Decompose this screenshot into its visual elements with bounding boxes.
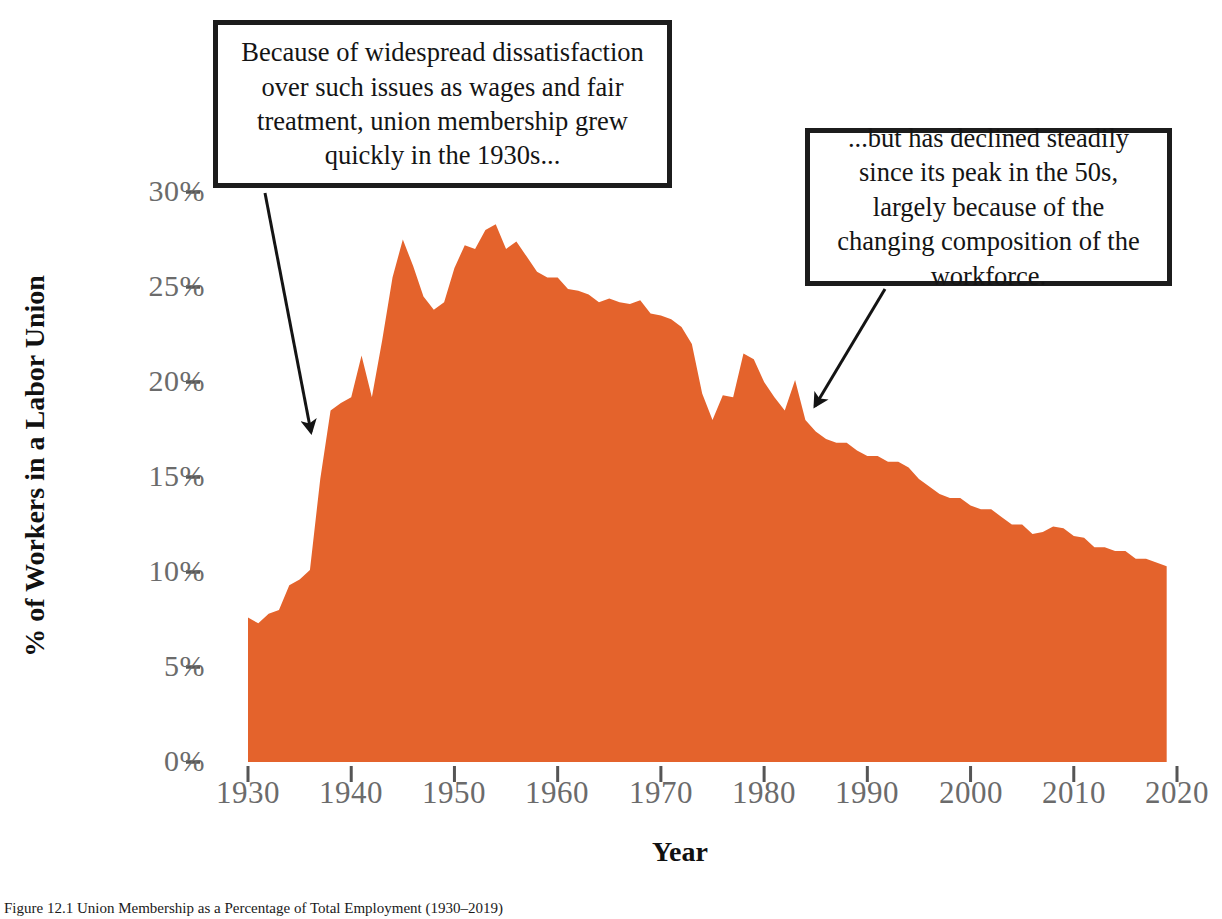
x-tick-1940: 1940 (291, 777, 411, 808)
x-tick-2000: 2000 (911, 777, 1031, 808)
y-tick-30: 30% (95, 176, 205, 206)
x-tick-2010: 2010 (1014, 777, 1134, 808)
annotation-callout-decline: ...but has declined steadily since its p… (805, 128, 1172, 286)
x-tick-1960: 1960 (497, 777, 617, 808)
annotation-text-1930s-growth: Because of widespread dissatisfaction ov… (232, 35, 653, 173)
annotation-text-decline: ...but has declined steadily since its p… (824, 121, 1153, 293)
annotation-callout-1930s-growth: Because of widespread dissatisfaction ov… (213, 20, 672, 188)
annotation-arrow-growth (265, 193, 311, 432)
y-tick-0: 0% (95, 746, 205, 776)
figure-union-membership: 30% 25% 20% 15% 10% 5% 0% 1930 1940 1950… (0, 0, 1222, 919)
x-tick-1950: 1950 (394, 777, 514, 808)
y-tick-15: 15% (95, 461, 205, 491)
y-tick-20: 20% (95, 366, 205, 396)
y-tick-25: 25% (95, 271, 205, 301)
figure-caption: Figure 12.1 Union Membership as a Percen… (4, 900, 1204, 917)
y-tick-5: 5% (95, 651, 205, 681)
x-tick-1980: 1980 (704, 777, 824, 808)
area-series-union-membership (248, 224, 1167, 762)
x-tick-1970: 1970 (601, 777, 721, 808)
x-axis-title: Year (180, 836, 1180, 868)
y-axis-tick-labels: 30% 25% 20% 15% 10% 5% 0% (60, 0, 205, 919)
y-tick-10: 10% (95, 556, 205, 586)
annotation-arrow-decline (815, 289, 885, 406)
x-tick-2020: 2020 (1117, 777, 1222, 808)
x-tick-1930: 1930 (188, 777, 308, 808)
x-tick-1990: 1990 (807, 777, 927, 808)
y-axis-title: % of Workers in a Labor Union (19, 166, 51, 766)
